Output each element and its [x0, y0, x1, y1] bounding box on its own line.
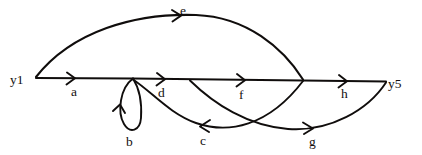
- edge-g-path: [190, 81, 386, 130]
- edge-b-arrowhead: [113, 105, 125, 114]
- vertex-label-y5: y5: [388, 76, 402, 91]
- vertex-label-y1: y1: [10, 72, 24, 87]
- edge-label-b: b: [126, 134, 133, 149]
- edge-label-a: a: [71, 84, 77, 99]
- edge-h-path: [303, 81, 386, 82]
- edge-d-path: [133, 79, 303, 81]
- edge-a-path: [36, 78, 133, 79]
- edge-b-path: [120, 79, 141, 130]
- edge-label-e: e: [180, 3, 186, 18]
- edge-label-g: g: [309, 134, 316, 149]
- edge-e-path: [36, 15, 303, 80]
- graph-canvas: y1 y5 a b c d e f g h: [0, 0, 422, 155]
- graph-diagram: y1 y5 a b c d e f g h: [0, 0, 422, 155]
- edge-label-c: c: [200, 133, 206, 148]
- edge-label-h: h: [341, 86, 348, 101]
- edge-label-d: d: [158, 85, 165, 100]
- edge-label-f: f: [239, 87, 244, 102]
